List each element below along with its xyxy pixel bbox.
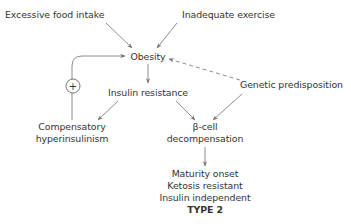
arrow-exercise-to-obesity (157, 23, 177, 48)
outcome-ketosis-resistant: Ketosis resistant (167, 180, 242, 192)
arrow-food-to-obesity (106, 23, 132, 48)
node-obesity: Obesity (130, 51, 165, 63)
outcome-maturity-onset: Maturity onset (172, 168, 239, 180)
arrow-ir-to-betacell (176, 101, 195, 120)
node-inadequate-exercise: Inadequate exercise (182, 9, 275, 21)
node-betacell-line2: decompensation (167, 133, 244, 145)
arrow-genetic-to-betacell (213, 94, 242, 120)
node-betacell-line1: β-cell (193, 121, 218, 133)
node-insulin-resistance: Insulin resistance (108, 87, 188, 99)
node-compensatory-line2: hyperinsulinism (36, 133, 109, 145)
node-excessive-food-intake: Excessive food intake (5, 9, 104, 21)
arrow-genetic-to-obesity-dashed (169, 59, 240, 80)
plus-icon: + (69, 81, 77, 92)
node-genetic-predisposition: Genetic predisposition (240, 79, 343, 91)
arrow-ir-to-compensatory (98, 101, 118, 120)
outcome-type-2: TYPE 2 (187, 204, 223, 216)
outcome-insulin-independent: Insulin independent (159, 192, 250, 204)
node-compensatory-line1: Compensatory (38, 121, 105, 133)
